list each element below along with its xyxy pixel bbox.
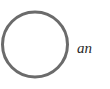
node-label: an: [77, 40, 92, 56]
circle-node: [3, 12, 68, 77]
diagram-canvas: [0, 0, 110, 89]
